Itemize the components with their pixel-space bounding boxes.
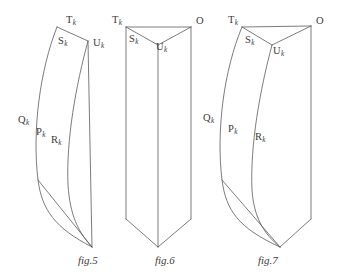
fig5-label-P: Pk [36,127,45,138]
figure-plate: Tk Sk Uk Qk Pk Rk Tk Sk Uk O Tk Sk Uk O … [0,0,343,280]
fig7-label-T: Tk [228,15,238,26]
fig7-label-O: O [316,16,324,27]
fig5-label-R: Rk [51,135,61,146]
fig7-mid-edge [252,45,280,247]
fig7-label-P: Pk [228,124,237,135]
fig6-label-S: Sk [129,34,138,45]
fig7-bottom-left-edge [222,180,280,247]
fig7-label-U: Uk [273,46,284,57]
fig6-label-U: Uk [156,42,167,53]
fig6-geometry [126,27,191,247]
fig7-caption: fig.7 [258,255,278,266]
fig5-label-Q: Qk [18,115,29,126]
fig6-bottom-left-edge [126,219,158,247]
fig6-label-T: Tk [112,15,122,26]
fig5-label-S: Sk [58,36,67,47]
fig7-apex-to-top-right [272,26,311,45]
fig5-right-edge [88,41,92,247]
fig6-caption: fig.6 [155,255,175,266]
fig7-label-Q: Qk [203,113,214,124]
fig7-left-edge [220,27,280,247]
fig7-label-R: Rk [255,132,265,143]
fig5-bottom-left-edge [38,180,92,247]
fig5-label-T: Tk [66,15,76,26]
fig5-caption: fig.5 [78,255,98,266]
fig6-bottom-right-edge [158,219,191,247]
fig7-label-S: Sk [245,35,254,46]
fig7-top-ridge [242,26,311,27]
fig6-label-O: O [196,16,204,27]
fig5-label-U: Uk [93,38,104,49]
fig7-bottom-right-edge [280,219,311,247]
